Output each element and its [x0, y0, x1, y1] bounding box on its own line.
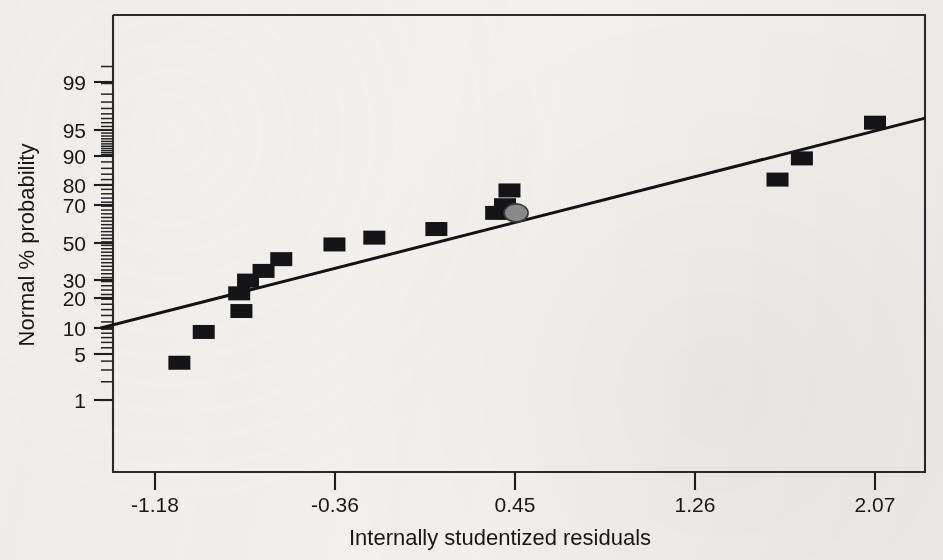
plot-frame [113, 15, 925, 472]
x-tick-label: 1.26 [675, 493, 716, 516]
x-tick-label: 0.45 [495, 493, 536, 516]
highlighted-data-point [504, 204, 528, 222]
x-axis-major-ticks [155, 472, 875, 490]
data-point [864, 116, 886, 130]
x-tick-label: -0.36 [311, 493, 359, 516]
data-point [230, 304, 252, 318]
data-point [767, 173, 789, 187]
normal-probability-plot: 99 95 90 80 70 50 30 20 10 5 1 Normal % … [0, 0, 943, 560]
y-axis-title: Normal % probability [14, 144, 39, 347]
data-point [270, 252, 292, 266]
y-tick-label: 95 [63, 119, 86, 142]
y-tick-label: 1 [74, 389, 86, 412]
x-axis-tick-labels: -1.18 -0.36 0.45 1.26 2.07 [131, 493, 895, 516]
y-tick-label: 90 [63, 145, 86, 168]
data-point [193, 325, 215, 339]
data-point [498, 183, 520, 197]
y-tick-label: 5 [74, 343, 86, 366]
x-axis-title: Internally studentized residuals [349, 525, 651, 550]
data-point [363, 231, 385, 245]
data-point [228, 286, 250, 300]
data-point [323, 237, 345, 251]
data-point [425, 222, 447, 236]
x-tick-label: -1.18 [131, 493, 179, 516]
y-axis-tick-labels: 99 95 90 80 70 50 30 20 10 5 1 [63, 71, 86, 412]
data-point [168, 356, 190, 370]
y-tick-label: 10 [63, 317, 86, 340]
x-tick-label: 2.07 [855, 493, 896, 516]
normal-reference-line [102, 119, 924, 328]
data-point [791, 151, 813, 165]
y-tick-label: 99 [63, 71, 86, 94]
y-tick-label: 50 [63, 232, 86, 255]
y-tick-label: 70 [63, 194, 86, 217]
y-tick-label: 20 [63, 287, 86, 310]
y-axis-minor-ticks [101, 67, 113, 401]
plot-canvas: 99 95 90 80 70 50 30 20 10 5 1 Normal % … [0, 0, 943, 560]
data-points-layer [168, 116, 886, 370]
